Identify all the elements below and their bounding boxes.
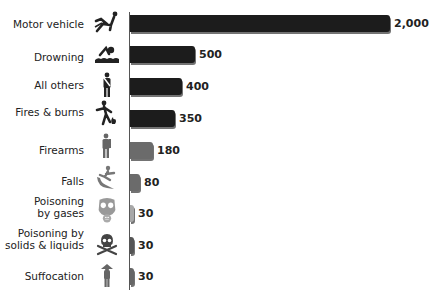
category-label-text: Falls: [61, 175, 84, 187]
category-label-line: solids & liquids: [5, 239, 84, 251]
value-label: 400: [186, 78, 209, 95]
category-label-text: Drowning: [34, 51, 84, 63]
value-label: 30: [138, 237, 153, 254]
category-label-text: Fires & burns: [15, 106, 84, 118]
category-label-text: Suffocation: [25, 270, 84, 282]
bar-all-others: [130, 78, 182, 95]
category-label-text: Motor vehicle: [13, 18, 84, 30]
bar-drowning: [130, 46, 195, 63]
horizontal-bar-chart: Motor vehicle 2,000 Drowning 500 All oth…: [0, 0, 435, 303]
bar-firearms: [130, 142, 153, 159]
bar-poisoning-solids-liquids: [130, 237, 134, 254]
category-label-text: Firearms: [39, 144, 84, 156]
bar-poisoning-gases: [130, 205, 134, 222]
category-label: Drowning: [34, 51, 84, 63]
person-fire-icon: [94, 100, 120, 126]
category-label-line: Poisoning by: [5, 227, 84, 239]
category-label-text: All others: [34, 79, 84, 91]
bar-motor-vehicle: [130, 15, 390, 32]
category-label: Suffocation: [25, 270, 84, 282]
category-label: Motor vehicle: [13, 18, 84, 30]
bar-fires-burns: [130, 110, 175, 127]
value-label: 350: [179, 110, 202, 127]
person-suffocation-icon: [94, 262, 120, 288]
value-label: 30: [138, 268, 153, 285]
bar-suffocation: [130, 268, 134, 285]
value-label: 30: [138, 205, 153, 222]
category-label: Fires & burns: [15, 106, 84, 118]
category-label-line: by gases: [34, 207, 84, 219]
category-label: All others: [34, 79, 84, 91]
category-label: Poisoning by gases: [34, 195, 84, 219]
category-label-line: Poisoning: [34, 195, 84, 207]
person-falling-icon: [94, 165, 120, 191]
category-label: Falls: [61, 175, 84, 187]
person-gun-icon: [94, 133, 120, 159]
value-label: 180: [157, 142, 180, 159]
gas-mask-icon: [94, 197, 120, 223]
value-label: 80: [144, 174, 159, 191]
category-label: Firearms: [39, 144, 84, 156]
category-label: Poisoning by solids & liquids: [5, 227, 84, 251]
value-label: 2,000: [394, 15, 429, 32]
bar-falls: [130, 174, 140, 191]
person-sash-icon: [94, 72, 120, 98]
swimmer-drowning-icon: [94, 42, 120, 68]
skull-crossbones-icon: [94, 231, 120, 257]
value-label: 500: [199, 46, 222, 63]
car-crash-person-icon: [94, 10, 120, 36]
